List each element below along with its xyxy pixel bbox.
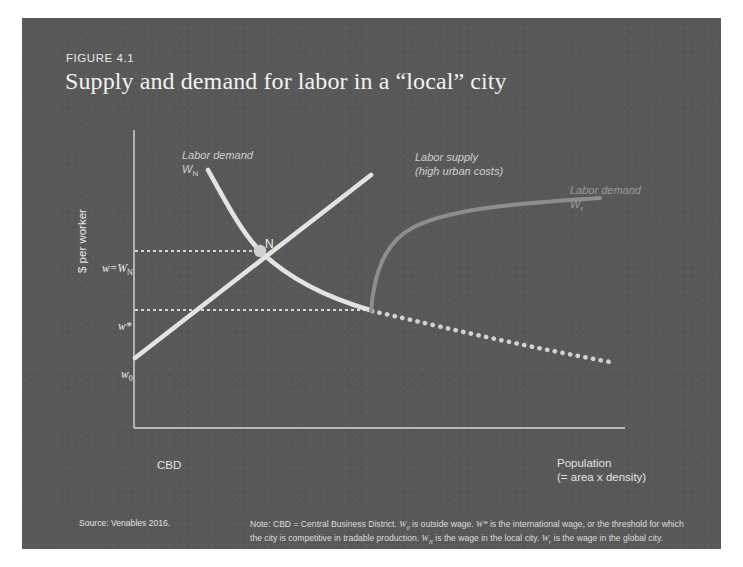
y-tick-label-wn: w=WN — [102, 261, 133, 278]
label-labor-supply: Labor supply (high urban costs) — [415, 151, 503, 179]
label-labor-demand-wn: Labor demand WN — [182, 149, 253, 179]
note-mid3: is the wage in the local city. — [433, 533, 542, 543]
label-labor-supply-line2: (high urban costs) — [415, 165, 503, 179]
curve-labor-supply — [135, 175, 371, 358]
curve-labor-demand-wr — [371, 198, 600, 311]
figure-page: FIGURE 4.1 Supply and demand for labor i… — [0, 0, 743, 567]
x-axis-title: Population (= area x density) — [557, 456, 646, 485]
figure-source: Source: Venables 2016. — [79, 518, 170, 528]
x-axis-origin-label: CBD — [157, 458, 181, 472]
label-labor-demand-wn-line2: WN — [182, 163, 253, 179]
x-axis-title-line1: Population — [557, 456, 646, 470]
y-tick-label-w0: w0 — [121, 367, 133, 384]
note-wn: WN — [422, 533, 433, 543]
note-mid4: is the wage in the global city. — [551, 533, 663, 543]
note-prefix: Note: CBD = Central Business District. — [250, 519, 399, 529]
note-wr: Wr — [542, 533, 552, 543]
figure-note: Note: CBD = Central Business District. W… — [250, 518, 698, 546]
label-equilibrium-point: N — [265, 237, 274, 252]
label-labor-demand-wn-line1: Labor demand — [182, 149, 253, 163]
note-mid1: is outside wage. — [410, 519, 476, 529]
note-w0: W0 — [399, 519, 409, 529]
y-tick-label-wstar: w* — [118, 319, 131, 333]
figure-panel: FIGURE 4.1 Supply and demand for labor i… — [22, 18, 721, 549]
label-labor-demand-wr-line2: Wr — [570, 198, 641, 214]
x-axis-title-line2: (= area x density) — [557, 470, 646, 484]
note-wstar: W* — [476, 519, 487, 529]
y-axis-title: $ per worker — [76, 209, 88, 273]
label-labor-demand-wr: Labor demand Wr — [570, 184, 641, 214]
label-labor-demand-wr-line1: Labor demand — [570, 184, 641, 198]
curve-labor-demand-wn-dotted — [372, 311, 610, 362]
label-labor-supply-line1: Labor supply — [415, 151, 503, 165]
